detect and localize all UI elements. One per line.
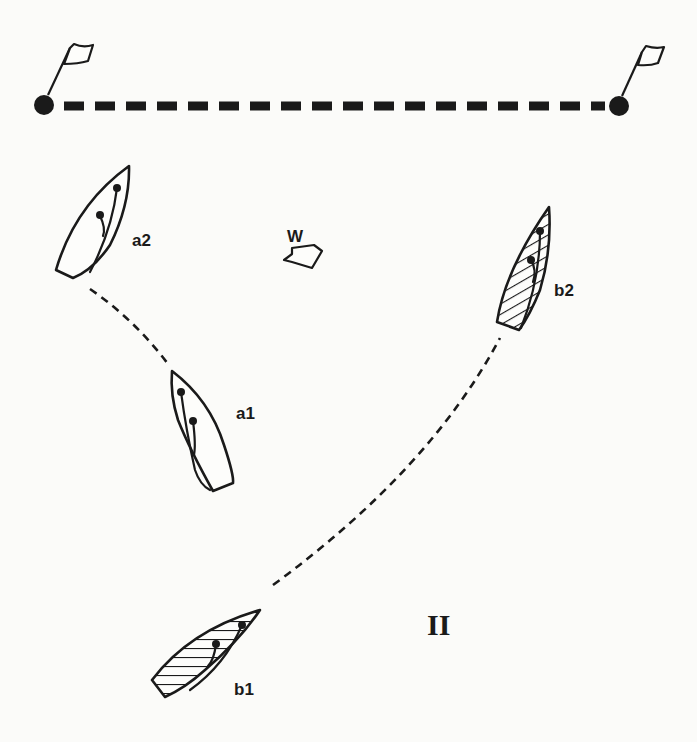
wind-label: W	[287, 227, 304, 246]
track-a	[90, 289, 168, 364]
boat-b2: b2	[497, 207, 574, 330]
boat-hull	[497, 207, 550, 330]
right-mark	[609, 46, 664, 116]
mast-icon	[113, 184, 121, 192]
flag-icon	[48, 44, 93, 95]
mast-icon	[189, 417, 197, 425]
boat-label: a2	[132, 231, 151, 250]
mast-icon	[212, 640, 220, 648]
wind-indicator: W	[284, 227, 322, 268]
mark-buoy-icon	[609, 96, 629, 116]
diagram-canvas: W a2 a1	[0, 0, 697, 742]
left-mark	[34, 44, 93, 115]
mast-icon	[238, 621, 246, 629]
boat-hull	[56, 166, 129, 278]
boat-label: b1	[234, 680, 254, 699]
diagram-numeral: II	[427, 608, 450, 641]
mark-buoy-icon	[34, 95, 54, 115]
boat-b1: b1	[152, 610, 260, 699]
wind-arrow-icon	[284, 245, 322, 268]
mast-icon	[96, 211, 104, 219]
start-line	[34, 44, 664, 116]
boat-label: a1	[236, 404, 255, 423]
boat-label: b2	[554, 281, 574, 300]
mast-icon	[527, 256, 535, 264]
track-b	[273, 338, 500, 585]
boat-a1: a1	[172, 371, 255, 491]
mast-icon	[177, 388, 185, 396]
flag-icon	[622, 46, 664, 96]
race-diagram: W a2 a1	[0, 0, 697, 742]
mast-icon	[536, 227, 544, 235]
boat-a2: a2	[56, 166, 151, 278]
